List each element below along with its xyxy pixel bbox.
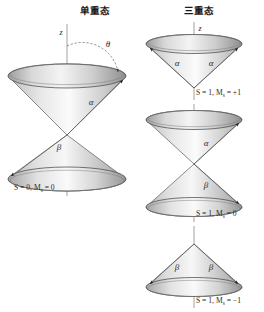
right-top-alpha-label-right: α [209,58,214,68]
right-bottom-beta-label-right: β [208,262,214,272]
right-state-tail-2: = 0 [225,209,237,218]
left-alpha-label: α [89,97,94,107]
right-state-tail-3: = −1 [225,296,241,305]
left-state-main: S = 0, M [14,183,41,192]
right-column-triplet: 三重态 z α α S = 1, Ms = +1 α [146,5,242,308]
right-state-label-zero: S = 1, Ms = 0 [196,209,237,219]
right-bottom-beta-label-left: β [174,262,180,272]
right-state-tail-1: = +1 [225,88,241,97]
right-group-ms-plus-one: z α α S = 1, Ms = +1 [146,22,242,100]
right-state-main-3: S = 1, M [196,296,223,305]
right-state-main-1: S = 1, M [196,88,223,97]
left-column-singlet: 单重态 z α β θ S = 0, Ms = 0 [8,5,126,196]
right-column-title: 三重态 [184,5,214,16]
right-top-alpha-label-left: α [175,58,180,68]
right-state-label-plus-one: S = 1, Ms = +1 [196,88,241,98]
right-group-ms-minus-one: β β S = 1, Ms = −1 [146,226,242,308]
spin-vector-model-figure: 单重态 z α β θ S = 0, Ms = 0 三重态 z [0,0,264,312]
left-state-label: S = 0, Ms = 0 [14,183,55,193]
right-state-label-minus-one: S = 1, Ms = −1 [196,296,241,306]
right-group-ms-zero: α β S = 1, Ms = 0 [146,104,242,222]
left-beta-label: β [56,142,62,152]
right-mid-beta-label: β [203,180,209,190]
right-mid-alpha-label: α [204,138,209,148]
left-theta-label: θ [106,39,111,49]
left-state-tail: = 0 [43,183,55,192]
left-z-axis-label: z [58,28,63,37]
right-z-axis-label: z [197,24,202,33]
right-state-main-2: S = 1, M [196,209,223,218]
left-column-title: 单重态 [80,5,110,16]
